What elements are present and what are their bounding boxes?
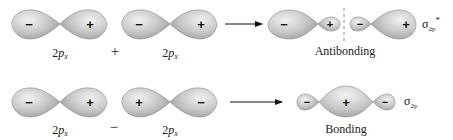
bonding-orbital: − + − bbox=[297, 86, 395, 117]
p-orbital-b: + − 2px bbox=[122, 88, 217, 138]
orbital-lobe-right bbox=[60, 10, 107, 39]
orbital-lobe-left bbox=[122, 10, 170, 39]
orbital-label: 2px bbox=[52, 123, 68, 138]
orbital-lobe-left bbox=[12, 88, 60, 117]
phase-sign: + bbox=[135, 95, 143, 110]
phase-sign: − bbox=[304, 96, 310, 108]
antibonding-row: − + 2px + − + 2px − + − + σ2p* Antibond bbox=[12, 8, 441, 61]
orbital-lobe-left bbox=[122, 88, 170, 117]
phase-sign: + bbox=[342, 95, 350, 110]
sigma-label: σ2p bbox=[404, 94, 418, 110]
orbital-lobe-left bbox=[12, 10, 60, 39]
phase-sign: + bbox=[402, 17, 410, 32]
orbital-lobe-large-left bbox=[268, 10, 318, 39]
phase-sign: − bbox=[25, 95, 33, 110]
phase-sign: − bbox=[357, 18, 363, 30]
plus-operator: + bbox=[111, 43, 119, 59]
antibonding-caption: Antibonding bbox=[315, 44, 376, 58]
sigma-star-label: σ2p* bbox=[422, 15, 440, 33]
orbital-lobe-right bbox=[170, 88, 217, 117]
p-orbital-a: − + 2px bbox=[12, 88, 107, 138]
phase-sign: − bbox=[197, 95, 205, 110]
minus-operator: − bbox=[110, 119, 118, 135]
phase-sign: + bbox=[86, 17, 94, 32]
phase-sign: − bbox=[280, 17, 288, 32]
phase-sign: + bbox=[327, 18, 333, 30]
bonding-caption: Bonding bbox=[325, 122, 366, 136]
p-orbital-a: − + 2px bbox=[12, 10, 107, 61]
molecular-orbital-diagram: − + 2px + − + 2px − + − + σ2p* Antibond bbox=[0, 0, 453, 140]
orbital-label: 2px bbox=[162, 46, 178, 61]
phase-sign: + bbox=[86, 95, 94, 110]
phase-sign: − bbox=[382, 96, 388, 108]
antibonding-orbital: − + − + bbox=[268, 8, 416, 41]
p-orbital-b: − + 2px bbox=[122, 10, 217, 61]
phase-sign: + bbox=[197, 17, 205, 32]
orbital-label: 2px bbox=[162, 123, 178, 138]
orbital-lobe-right bbox=[60, 88, 107, 117]
orbital-label: 2px bbox=[52, 46, 68, 61]
phase-sign: − bbox=[25, 17, 33, 32]
phase-sign: − bbox=[135, 17, 143, 32]
orbital-lobe-right bbox=[170, 10, 217, 39]
bonding-row: − + 2px − + − 2px − + − σ2p Bonding bbox=[12, 86, 418, 138]
